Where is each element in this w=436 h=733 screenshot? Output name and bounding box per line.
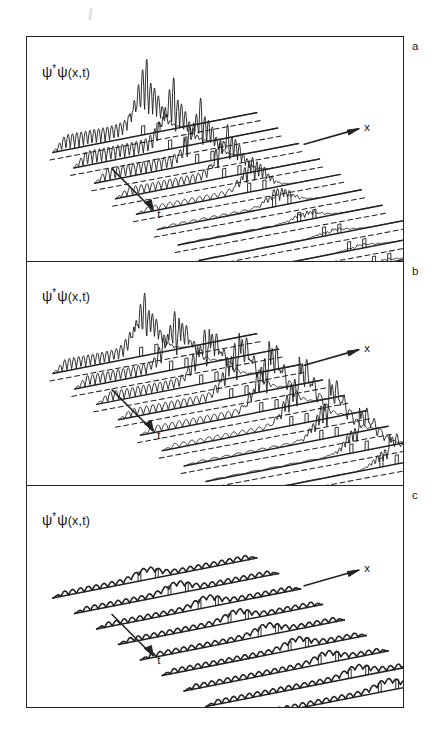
panel-c-ylabel-args: (x,t) — [68, 514, 91, 528]
panel-b-ylabel-star: * — [52, 287, 56, 298]
x-axis-label: x — [364, 342, 370, 354]
panel-c-ylabel: ψ* ψ(x,t) — [42, 512, 90, 528]
panel-b-ylabel-psi2: ψ — [57, 288, 67, 304]
panel-b-ylabel-psi: ψ — [42, 288, 52, 304]
panel-label-b: b — [412, 266, 419, 278]
panel-label-c: c — [412, 490, 418, 502]
panel-a-ylabel-star: * — [52, 63, 56, 74]
panel-a-ylabel-args: (x,t) — [68, 66, 91, 80]
panel-c-ylabel-star: * — [52, 511, 56, 522]
panel-a-ylabel: ψ* ψ(x,t) — [42, 64, 90, 80]
x-axis-label: x — [364, 121, 370, 133]
panel-c-ylabel-psi: ψ — [42, 512, 52, 528]
figure-frame: xt xt xt — [26, 36, 404, 708]
panel-b-ylabel-args: (x,t) — [68, 290, 91, 304]
panel-label-a: a — [412, 41, 419, 53]
scan-artifact-mark — [88, 8, 92, 20]
panel-c-ylabel-psi2: ψ — [57, 512, 67, 528]
panel-a-ylabel-psi: ψ — [42, 64, 52, 80]
figure-root: xt xt xt ψ* ψ(x,t) ψ* ψ(x,t) ψ* ψ(x,t) a… — [0, 0, 436, 733]
x-axis-label: x — [364, 562, 370, 574]
panel-a-ylabel-psi2: ψ — [57, 64, 67, 80]
panel-b-ylabel: ψ* ψ(x,t) — [42, 288, 90, 304]
